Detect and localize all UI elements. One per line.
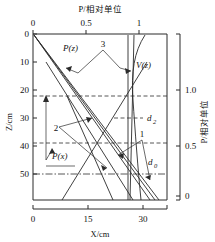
d2-subscript: 2 <box>153 118 157 125</box>
arrow-2-down <box>101 165 107 171</box>
arrow-1-right <box>145 175 151 180</box>
curve-px <box>62 62 147 200</box>
marker-label-1: 1 <box>140 129 145 139</box>
top-axis-ticks <box>33 30 139 34</box>
top-tick-label-05: 0.5 <box>80 18 92 28</box>
right-axis-title: P/相对单位 <box>199 100 209 143</box>
curve-vertical-secondary <box>130 35 134 200</box>
left-tick-label-0: 0 <box>25 29 30 39</box>
top-axis-title: P/相对单位 <box>78 4 121 14</box>
left-tick-label-50: 50 <box>20 169 30 179</box>
bottom-tick-label-15: 15 <box>84 214 94 224</box>
bottom-axis-title: X/cm <box>91 229 110 239</box>
right-tick-label-10: 1.0 <box>185 85 197 95</box>
left-tick-label-30: 30 <box>20 113 30 123</box>
top-tick-label-0: 0 <box>31 18 36 28</box>
marker-label-2: 2 <box>54 123 59 133</box>
bottom-axis <box>33 205 167 209</box>
px-curve-label: P(x) <box>51 151 68 161</box>
left-tick-label-40: 40 <box>20 141 30 151</box>
d0-subscript: 0 <box>154 162 158 169</box>
bottom-tick-label-30: 30 <box>139 214 149 224</box>
vz-curve-label: V(z) <box>136 60 151 70</box>
arrow-2-up <box>86 117 92 123</box>
left-tick-label-10: 10 <box>20 57 30 67</box>
marker-label-3: 3 <box>101 39 106 49</box>
left-axis-ticks <box>33 34 37 174</box>
figure-container: P/相对单位 0 0.5 1 Z/cm 0 10 20 30 40 50 P/相… <box>0 0 215 242</box>
chart-svg: P/相对单位 0 0.5 1 Z/cm 0 10 20 30 40 50 P/相… <box>0 0 215 242</box>
top-tick-label-1: 1 <box>137 18 142 28</box>
right-tick-label-05: 0.5 <box>185 141 197 151</box>
left-axis-title: Z/cm <box>4 113 14 131</box>
d2-label: d <box>147 113 152 123</box>
d0-label: d <box>148 157 153 167</box>
leader-3-right <box>103 50 131 71</box>
pz-curve-label: P(z) <box>62 43 78 53</box>
arrow-3-left <box>66 66 72 72</box>
leader-1-left <box>118 140 142 155</box>
d0-annotation: d 0 <box>148 157 158 169</box>
bottom-tick-label-0: 0 <box>31 214 36 224</box>
leader-3-left <box>66 50 103 73</box>
left-tick-label-20: 20 <box>20 85 30 95</box>
d2-annotation: d 2 <box>147 113 157 125</box>
right-tick-label-0: 0 <box>185 191 190 201</box>
curve-cross-a <box>46 62 133 200</box>
right-axis <box>176 34 180 200</box>
